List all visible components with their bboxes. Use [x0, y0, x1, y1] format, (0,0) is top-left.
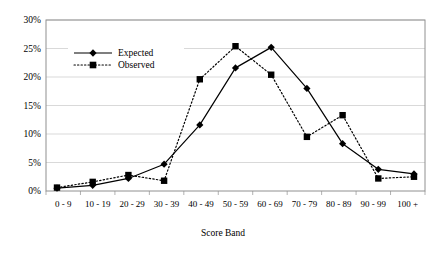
x-axis-title: Score Band	[201, 228, 245, 238]
line-chart: 0%5%10%15%20%25%30% 0 - 910 - 1920 - 293…	[0, 0, 446, 255]
y-axis-tick-label: 15%	[24, 101, 42, 111]
data-point-marker	[54, 184, 60, 190]
data-point-marker	[304, 134, 310, 140]
legend-label-observed: Observed	[118, 60, 155, 70]
y-axis-tick-label: 0%	[28, 186, 41, 196]
data-point-marker	[411, 174, 417, 180]
x-axis-tick-label: 90 - 99	[361, 199, 387, 209]
x-axis-tick-labels: 0 - 910 - 1920 - 2930 - 3940 - 4950 - 59…	[55, 199, 418, 209]
x-axis-ticks	[46, 191, 425, 195]
x-axis-tick-label: 70 - 79	[292, 199, 318, 209]
data-point-marker	[268, 72, 274, 78]
y-axis-tick-label: 30%	[24, 15, 42, 25]
x-axis-tick-label: 20 - 29	[119, 199, 145, 209]
data-point-marker	[125, 172, 131, 178]
x-axis-tick-label: 30 - 39	[154, 199, 180, 209]
y-axis-tick-label: 20%	[24, 72, 42, 82]
data-point-marker	[232, 43, 238, 49]
data-point-marker	[161, 178, 167, 184]
y-axis-tick-label: 5%	[28, 158, 41, 168]
x-axis-tick-label: 100 +	[397, 199, 418, 209]
legend-label-expected: Expected	[118, 48, 154, 58]
data-point-marker	[197, 76, 203, 82]
y-axis-tick-label: 25%	[24, 44, 42, 54]
chart-container: 0%5%10%15%20%25%30% 0 - 910 - 1920 - 293…	[0, 0, 446, 255]
x-axis-tick-label: 40 - 49	[188, 199, 214, 209]
data-point-marker	[375, 175, 381, 181]
legend-marker-square	[90, 62, 97, 69]
chart-legend: Expected Observed	[68, 43, 184, 73]
x-axis-tick-label: 0 - 9	[55, 199, 72, 209]
x-axis-tick-label: 50 - 59	[223, 199, 249, 209]
data-point-marker	[339, 112, 345, 118]
data-point-marker	[90, 179, 96, 185]
y-axis-tick-label: 10%	[24, 129, 42, 139]
x-axis-tick-label: 60 - 69	[257, 199, 283, 209]
x-axis-tick-label: 80 - 89	[326, 199, 352, 209]
y-axis-tick-labels: 0%5%10%15%20%25%30%	[24, 15, 42, 196]
x-axis-tick-label: 10 - 19	[85, 199, 111, 209]
